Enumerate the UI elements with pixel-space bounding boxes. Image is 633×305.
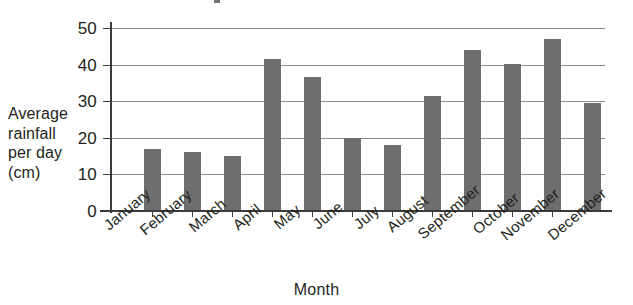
- plot-area: [111, 28, 605, 211]
- gridline-40: [111, 65, 605, 66]
- y-tick-label-30: 30: [55, 93, 97, 110]
- bar-july[interactable]: [384, 145, 401, 211]
- x-tick-mark-9: [472, 212, 473, 217]
- bar-august[interactable]: [424, 96, 441, 211]
- bar-june[interactable]: [344, 138, 361, 211]
- y-tick-label-50: 50: [55, 20, 97, 37]
- x-axis-title: Month: [0, 281, 633, 299]
- gridline-30: [111, 101, 605, 102]
- y-tick-label-40: 40: [55, 57, 97, 74]
- bar-march[interactable]: [224, 156, 241, 211]
- bar-may[interactable]: [304, 77, 321, 211]
- bar-october[interactable]: [504, 64, 521, 212]
- bar-april[interactable]: [264, 59, 281, 211]
- y-axis-line: [110, 22, 112, 213]
- y-tick-label-0: 0: [55, 203, 97, 220]
- y-tick-label-10: 10: [55, 166, 97, 183]
- gridline-50: [111, 28, 605, 29]
- x-tick-mark-11: [552, 212, 553, 217]
- bar-chart-figure: Average rainfall per day (cm) 50 40 30 2…: [0, 0, 633, 305]
- y-tick-label-20: 20: [55, 130, 97, 147]
